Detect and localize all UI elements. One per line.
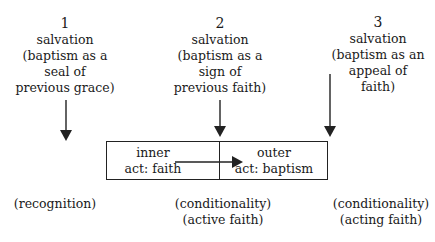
bottom-label-3-line-1: (conditionality): [326, 196, 435, 212]
arrow-3-down-icon: [324, 74, 336, 137]
bottom-label-2-line-2: (active faith): [168, 212, 278, 228]
bottom-label-2-line-1: (conditionality): [168, 196, 278, 212]
inner-act-label: act: faith: [107, 161, 219, 177]
bottom-label-2: (conditionality) (active faith): [168, 196, 278, 228]
faith-baptism-box: inner act: faith outer act: baptism: [106, 141, 328, 180]
bottom-label-1-line-1: (recognition): [10, 196, 100, 212]
inner-act-cell: inner act: faith: [107, 145, 219, 177]
bottom-label-3: (conditionality) (acting faith): [326, 196, 435, 228]
bottom-label-1: (recognition): [10, 196, 100, 212]
arrow-2-down-icon: [214, 100, 226, 137]
outer-act-label: act: baptism: [220, 161, 328, 177]
outer-label: outer: [220, 145, 328, 161]
outer-act-cell: outer act: baptism: [220, 145, 328, 177]
inner-label: inner: [107, 145, 219, 161]
bottom-label-3-line-2: (acting faith): [326, 212, 435, 228]
arrow-1-down-icon: [60, 100, 72, 141]
